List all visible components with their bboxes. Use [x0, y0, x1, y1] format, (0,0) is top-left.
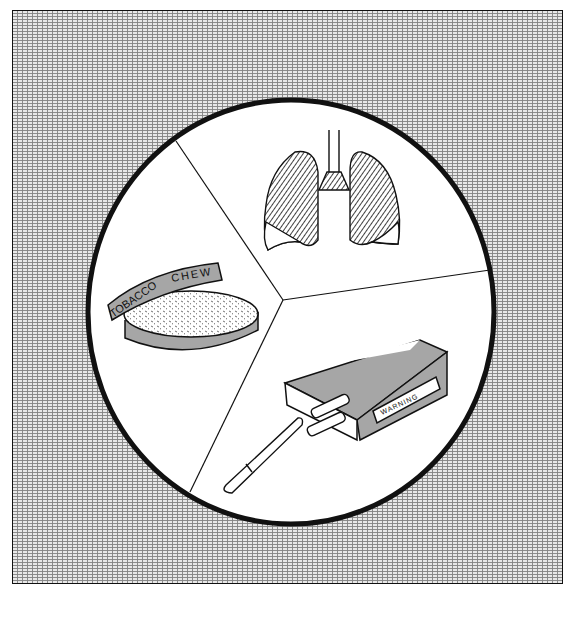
tobacco-illustration: TOBACCO CHEW WARNING: [0, 0, 577, 630]
caption-area: [0, 596, 577, 626]
